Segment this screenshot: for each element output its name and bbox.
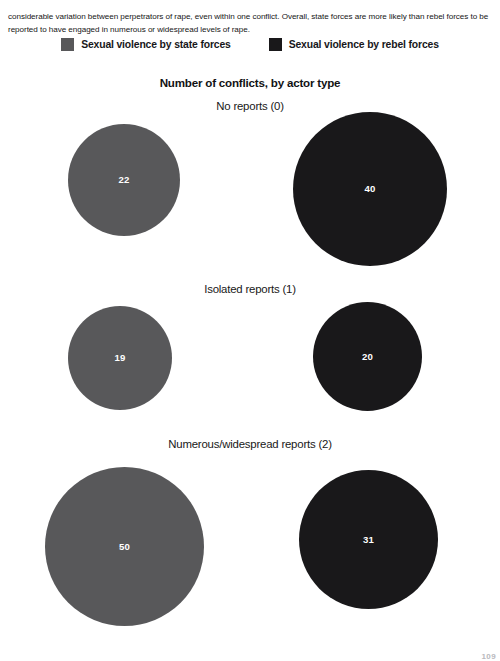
bubble-value-rebel-numerous-widespread-reports: 31 (363, 535, 374, 545)
legend-swatch-state-forces (61, 38, 74, 51)
chart-legend: Sexual violence by state forces Sexual v… (0, 38, 500, 51)
intro-paragraph: considerable variation between perpetrat… (8, 10, 492, 36)
group-label-numerous-widespread-reports: Numerous/widespread reports (2) (0, 438, 500, 450)
bubble-value-rebel-isolated-reports: 20 (362, 352, 373, 362)
bubble-value-state-no-reports: 22 (118, 175, 129, 185)
legend-item-rebel-forces: Sexual violence by rebel forces (269, 38, 439, 51)
bubble-state-isolated-reports: 19 (68, 306, 172, 410)
bubble-state-no-reports: 22 (68, 124, 180, 236)
bubble-rebel-numerous-widespread-reports: 31 (299, 470, 438, 609)
legend-item-state-forces: Sexual violence by state forces (61, 38, 231, 51)
bubble-value-state-numerous-widespread-reports: 50 (119, 542, 130, 552)
bubble-value-state-isolated-reports: 19 (114, 353, 125, 363)
legend-swatch-rebel-forces (269, 38, 282, 51)
group-label-isolated-reports: Isolated reports (1) (0, 283, 500, 295)
legend-label-rebel-forces: Sexual violence by rebel forces (289, 39, 439, 50)
bubble-state-numerous-widespread-reports: 50 (45, 467, 204, 626)
legend-label-state-forces: Sexual violence by state forces (81, 39, 231, 50)
bubble-rebel-no-reports: 40 (293, 112, 447, 266)
bubble-rebel-isolated-reports: 20 (313, 302, 422, 411)
bubble-value-rebel-no-reports: 40 (364, 184, 375, 194)
group-label-no-reports: No reports (0) (0, 100, 500, 112)
chart-title: Number of conflicts, by actor type (0, 76, 500, 89)
page-number-artifact: 109 (481, 652, 496, 661)
